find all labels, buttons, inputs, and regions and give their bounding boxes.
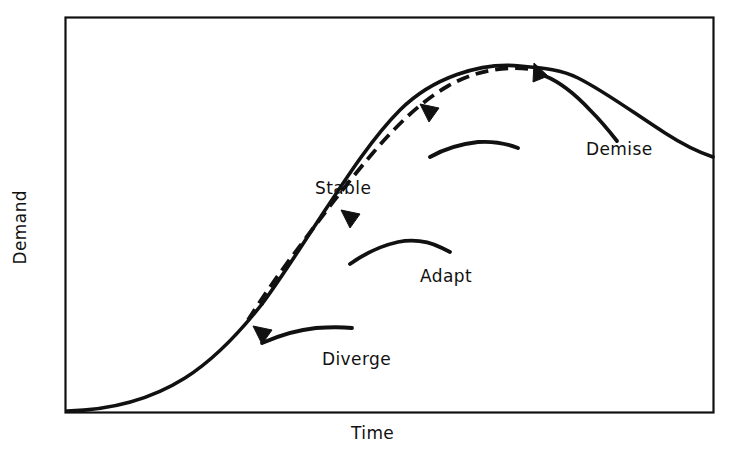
curve-label-adapt: Adapt	[420, 266, 472, 286]
y-axis-label: Demand	[10, 190, 30, 265]
x-axis-label: Time	[351, 423, 394, 443]
curve-label-stable: Stable	[315, 178, 371, 198]
chart-background	[0, 0, 738, 468]
curve-label-demise: Demise	[586, 139, 653, 159]
chart-figure: Demand Time Diverge Adapt Stable Demise	[0, 0, 738, 468]
curve-label-diverge: Diverge	[322, 349, 391, 369]
chart-plot-area	[0, 0, 738, 468]
